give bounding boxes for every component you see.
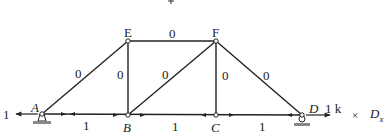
force-label-BE: 0 bbox=[117, 68, 124, 81]
force-label-BC: 1 bbox=[172, 120, 179, 133]
unit-case-subscript: x bbox=[379, 114, 383, 124]
truss-drawing bbox=[0, 0, 391, 137]
reaction-label-A: 1 bbox=[3, 108, 10, 121]
member-AE bbox=[42, 41, 128, 114]
joint-B bbox=[126, 113, 130, 117]
force-label-DF: 0 bbox=[263, 69, 270, 82]
force-label-CD: 1 bbox=[259, 120, 266, 133]
node-label-B: B bbox=[123, 121, 131, 134]
arrow-icon bbox=[70, 112, 75, 116]
joint-A bbox=[40, 112, 44, 116]
node-label-F: F bbox=[212, 26, 219, 39]
arrow-icon bbox=[201, 113, 206, 117]
node-label-A: A bbox=[31, 101, 39, 114]
unit-case-label: Dx bbox=[370, 107, 383, 124]
force-label-EF: 0 bbox=[169, 27, 176, 40]
load-label-D: 1 k bbox=[325, 102, 341, 115]
multiplier-symbol: × bbox=[352, 110, 358, 121]
force-label-AB: 1 bbox=[83, 119, 90, 132]
force-label-BF: 0 bbox=[162, 68, 169, 81]
arrow-icon bbox=[140, 113, 145, 117]
joint-D bbox=[300, 113, 304, 117]
unit-case-letter: D bbox=[370, 106, 379, 121]
arrow-icon bbox=[61, 112, 66, 116]
member-bottom-chord bbox=[42, 114, 302, 115]
member-DF bbox=[216, 41, 302, 115]
truss-diagram: A B C D E F 1 1 1 0 0 0 0 0 0 1 1 k × Dx bbox=[0, 0, 391, 137]
node-label-D: D bbox=[309, 102, 318, 115]
node-label-E: E bbox=[124, 26, 132, 39]
arrow-icon bbox=[229, 113, 234, 117]
member-BF bbox=[128, 41, 216, 115]
arrow-icon bbox=[287, 113, 292, 117]
joint-C bbox=[214, 113, 218, 117]
force-label-CF: 0 bbox=[222, 69, 229, 82]
node-label-C: C bbox=[211, 121, 220, 134]
force-label-AE: 0 bbox=[75, 67, 82, 80]
